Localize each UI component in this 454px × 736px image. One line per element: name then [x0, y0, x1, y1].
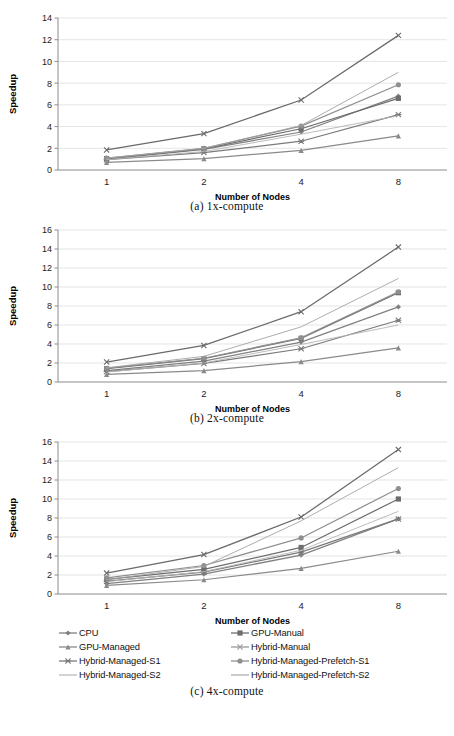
- x-tick-label: 1: [104, 176, 109, 187]
- y-tick-label: 10: [42, 282, 52, 292]
- chart-caption-4x: (c) 4x-compute: [0, 685, 454, 697]
- legend-label: Hybrid-Managed-Prefetch-S2: [251, 668, 369, 682]
- legend-entry[interactable]: Hybrid-Managed-Prefetch-S2: [230, 668, 454, 682]
- legend-line-marker: [58, 670, 78, 680]
- x-tick-label: 4: [298, 600, 303, 611]
- legend-asterisk-marker: [65, 658, 71, 663]
- y-tick-label: 2: [47, 570, 52, 580]
- data-point-circle-marker: [396, 486, 401, 491]
- legend-entry[interactable]: Hybrid-Managed-S1: [58, 654, 230, 668]
- data-point-circle-marker: [299, 335, 304, 340]
- y-tick-label: 8: [47, 513, 52, 523]
- chart-panel-4x: 02468101214161248SpeedupNumber of Nodes: [0, 424, 454, 624]
- x-tick-label: 4: [298, 388, 303, 399]
- legend-entry[interactable]: GPU-Managed: [58, 640, 230, 654]
- legend-cross-marker: [230, 642, 250, 652]
- y-axis-title: Speedup: [7, 286, 18, 326]
- y-tick-label: 12: [42, 475, 52, 485]
- x-tick-label: 2: [201, 388, 206, 399]
- y-tick-label: 0: [47, 165, 52, 175]
- data-point-circle-marker: [104, 366, 109, 371]
- line-chart-1x-compute: 024681012141248SpeedupNumber of Nodes: [0, 0, 454, 200]
- y-tick-label: 2: [47, 144, 52, 154]
- data-point-circle-marker: [299, 535, 304, 540]
- chart-container-1x: 024681012141248SpeedupNumber of Nodes: [0, 0, 454, 200]
- y-tick-label: 6: [47, 320, 52, 330]
- y-tick-label: 2: [47, 358, 52, 368]
- legend-entry[interactable]: Hybrid-Manual: [230, 640, 454, 654]
- data-point-square-marker: [396, 96, 401, 101]
- legend-label: GPU-Managed: [79, 640, 140, 654]
- legend-triangle-marker: [58, 642, 78, 652]
- legend-label: CPU: [79, 626, 98, 640]
- y-tick-label: 6: [47, 100, 52, 110]
- y-tick-label: 6: [47, 532, 52, 542]
- x-tick-label: 8: [396, 176, 401, 187]
- y-tick-label: 0: [47, 377, 52, 387]
- y-tick-label: 0: [47, 589, 52, 599]
- legend-label: Hybrid-Manual: [251, 640, 310, 654]
- y-tick-label: 12: [42, 263, 52, 273]
- line-chart-2x-compute: 02468101214161248SpeedupNumber of Nodes: [0, 212, 454, 412]
- x-axis-title: Number of Nodes: [215, 616, 290, 624]
- line-chart-4x-compute: 02468101214161248SpeedupNumber of Nodes: [0, 424, 454, 624]
- chart-caption-1x: (a) 1x-compute: [0, 200, 454, 212]
- x-tick-label: 1: [104, 388, 109, 399]
- legend-entry[interactable]: CPU: [58, 626, 230, 640]
- chart-container-4x: 02468101214161248SpeedupNumber of Nodes: [0, 424, 454, 624]
- y-tick-label: 16: [42, 437, 52, 447]
- data-point-square-marker: [396, 496, 401, 501]
- legend-square-marker: [230, 628, 250, 638]
- y-tick-label: 10: [42, 494, 52, 504]
- y-tick-label: 4: [47, 551, 52, 561]
- y-tick-label: 4: [47, 339, 52, 349]
- legend-square-marker: [237, 630, 242, 635]
- y-tick-label: 4: [47, 122, 52, 132]
- legend-entry[interactable]: Hybrid-Managed-S2: [58, 668, 230, 682]
- x-tick-label: 8: [396, 388, 401, 399]
- chart-panel-1x: 024681012141248SpeedupNumber of Nodes (a…: [0, 0, 454, 212]
- y-tick-label: 14: [42, 456, 52, 466]
- data-point-circle-marker: [396, 82, 401, 87]
- y-tick-label: 10: [42, 57, 52, 67]
- speedup-figure: 024681012141248SpeedupNumber of Nodes (a…: [0, 0, 454, 736]
- x-axis-title: Number of Nodes: [215, 192, 290, 200]
- legend-grid: CPUGPU-ManualGPU-ManagedHybrid-ManualHyb…: [58, 626, 454, 682]
- x-tick-label: 1: [104, 600, 109, 611]
- x-tick-label: 2: [201, 176, 206, 187]
- y-tick-label: 12: [42, 35, 52, 45]
- x-axis-title: Number of Nodes: [215, 404, 290, 412]
- legend-label: Hybrid-Managed-Prefetch-S1: [251, 654, 369, 668]
- y-axis-title: Speedup: [7, 74, 18, 114]
- legend-entry[interactable]: Hybrid-Managed-Prefetch-S1: [230, 654, 454, 668]
- data-point-circle-marker: [396, 289, 401, 294]
- chart-caption-2x: (b) 2x-compute: [0, 412, 454, 424]
- y-tick-label: 14: [42, 13, 52, 23]
- y-tick-label: 16: [42, 225, 52, 235]
- x-tick-label: 8: [396, 600, 401, 611]
- y-tick-label: 8: [47, 301, 52, 311]
- chart-legend: CPUGPU-ManualGPU-ManagedHybrid-ManualHyb…: [0, 624, 454, 682]
- legend-circle-marker: [230, 656, 250, 666]
- y-tick-label: 8: [47, 79, 52, 89]
- legend-circle-marker: [237, 658, 242, 663]
- chart-container-2x: 02468101214161248SpeedupNumber of Nodes: [0, 212, 454, 412]
- legend-entry[interactable]: GPU-Manual: [230, 626, 454, 640]
- legend-diamond-marker: [58, 628, 78, 638]
- y-axis-title: Speedup: [7, 498, 18, 538]
- y-tick-label: 14: [42, 244, 52, 254]
- legend-asterisk-marker: [58, 656, 78, 666]
- x-tick-label: 4: [298, 176, 303, 187]
- x-tick-label: 2: [201, 600, 206, 611]
- chart-panel-2x: 02468101214161248SpeedupNumber of Nodes …: [0, 212, 454, 424]
- legend-label: Hybrid-Managed-S1: [79, 654, 161, 668]
- legend-line-marker: [230, 670, 250, 680]
- legend-diamond-marker: [65, 630, 70, 635]
- legend-label: GPU-Manual: [251, 626, 304, 640]
- legend-label: Hybrid-Managed-S2: [79, 668, 161, 682]
